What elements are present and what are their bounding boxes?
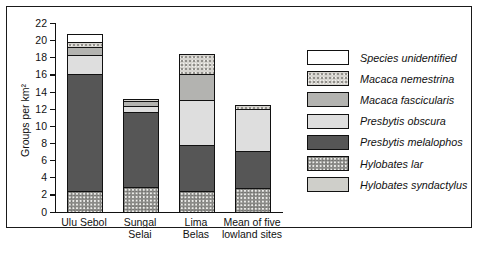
bar-segment [68,48,102,56]
legend-item: Hylobates syndactylus [307,174,467,195]
bar-segment [180,75,214,102]
legend-swatch [307,135,349,150]
legend-swatch [307,114,349,129]
y-tick-16 [50,74,55,75]
bar-segment [124,100,158,103]
y-tick-label-18: 18 [7,52,47,62]
bar-stack [235,105,271,213]
legend-label: Species unidentified [360,52,457,64]
y-tick-22 [50,23,55,24]
legend-label: Hylobates syndactylus [360,179,467,191]
legend-label: Presbytis obscura [360,115,446,127]
legend-swatch [307,92,349,107]
legend-item: Macaca nemestrina [307,68,467,89]
legend-item: Macaca fascicularis [307,89,467,110]
y-tick-label-4: 4 [7,172,47,182]
legend-swatch [307,71,349,86]
bar-segment [68,35,102,43]
bar-segment [180,101,214,146]
legend-label: Macaca fascicularis [360,94,454,106]
legend-label: Macaca nemestrina [360,73,454,85]
bar-segment [68,192,102,212]
y-tick-label-0: 0 [7,207,47,217]
y-tick-20 [50,40,55,41]
bar-segment [124,113,158,188]
bar-segment [236,189,270,212]
plot-area: 0246810121416182022 Ulu SebolSungal Sela… [55,23,283,213]
y-axis-title: Groups per km² [19,84,31,157]
y-tick-4 [50,177,55,178]
legend-item: Species unidentified [307,47,467,68]
y-tick-2 [50,194,55,195]
chart-frame: 0246810121416182022 Ulu SebolSungal Sela… [6,6,472,228]
bar-stack [123,99,159,213]
legend-swatch [307,156,349,171]
y-tick-10 [50,126,55,127]
y-tick-label-2: 2 [7,189,47,199]
bar-segment [236,110,270,152]
bar-segment [68,43,102,48]
legend-item: Presbytis obscura [307,111,467,132]
bar-segment [180,55,214,75]
bar-segment [236,106,270,110]
y-tick-0 [50,212,55,213]
y-tick-8 [50,143,55,144]
bar-segment [68,75,102,192]
legend-item: Hylobates lar [307,153,467,174]
chart-legend: Species unidentifiedMacaca nemestrinaMac… [307,47,467,195]
y-tick-6 [50,160,55,161]
bar-segment [124,107,158,112]
bar-segment [124,102,158,107]
y-tick-12 [50,109,55,110]
legend-item: Presbytis melalophos [307,132,467,153]
x-axis-label: Mean of five lowland sites [207,217,297,240]
legend-swatch [307,50,349,65]
y-tick-14 [50,92,55,93]
y-tick-label-22: 22 [7,18,47,28]
legend-swatch [307,177,349,192]
chart-figure: 0246810121416182022 Ulu SebolSungal Sela… [0,0,480,253]
bar-segment [124,188,158,212]
bar-segment [180,146,214,192]
y-tick-label-20: 20 [7,35,47,45]
y-axis-line [55,23,56,213]
bar-stack [67,34,103,213]
y-tick-18 [50,57,55,58]
legend-label: Hylobates lar [360,158,423,170]
bar-segment [68,56,102,75]
bar-stack [179,54,215,213]
bar-segment [180,192,214,212]
y-tick-label-16: 16 [7,69,47,79]
bar-segment [236,152,270,189]
legend-label: Presbytis melalophos [360,136,463,148]
